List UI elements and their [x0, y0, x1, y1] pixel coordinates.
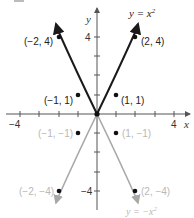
label-point-neg2-neg4: (−2, −4): [19, 186, 54, 197]
arrow-dark-left: [56, 24, 58, 31]
point-2-4: [133, 35, 138, 40]
y-tick-label-4: 4: [85, 32, 91, 43]
point-1-neg1: [114, 131, 119, 136]
label-point-2-4: (2, 4): [141, 36, 164, 47]
arrow-dark-right: [136, 24, 138, 31]
point-neg1-neg1: [76, 131, 81, 136]
x-tick-label-neg4: −4: [9, 119, 21, 130]
equation-label-top: y = x2: [128, 7, 156, 19]
point-1-1: [114, 93, 119, 98]
label-point-neg1-1: (−1, 1): [44, 95, 73, 106]
point-origin: [94, 111, 99, 116]
label-point-neg1-neg1: (−1, −1): [38, 128, 73, 139]
label-point-2-neg4: (2, −4): [141, 186, 170, 197]
point-neg2-neg4: [57, 189, 62, 194]
x-axis-label: x: [183, 118, 189, 130]
y-tick-label-neg4: −4: [81, 186, 93, 197]
arrow-gray-left: [56, 196, 58, 203]
point-2-neg4: [133, 189, 138, 194]
label-point-neg2-4: (−2, 4): [24, 36, 53, 47]
x-tick-label-4: 4: [171, 119, 177, 130]
arrow-gray-right: [136, 196, 138, 203]
parabola-chart: −4 4 4 −4 x y (−2, 4) (2, 4) (−1, 1) (1,…: [0, 0, 194, 218]
label-point-1-1: (1, 1): [121, 95, 144, 106]
point-neg1-1: [76, 93, 81, 98]
label-point-1-neg1: (1, −1): [122, 128, 151, 139]
point-neg2-4: [57, 35, 62, 40]
equation-label-bottom: y = −x2: [125, 205, 157, 217]
y-axis-label: y: [85, 13, 91, 25]
